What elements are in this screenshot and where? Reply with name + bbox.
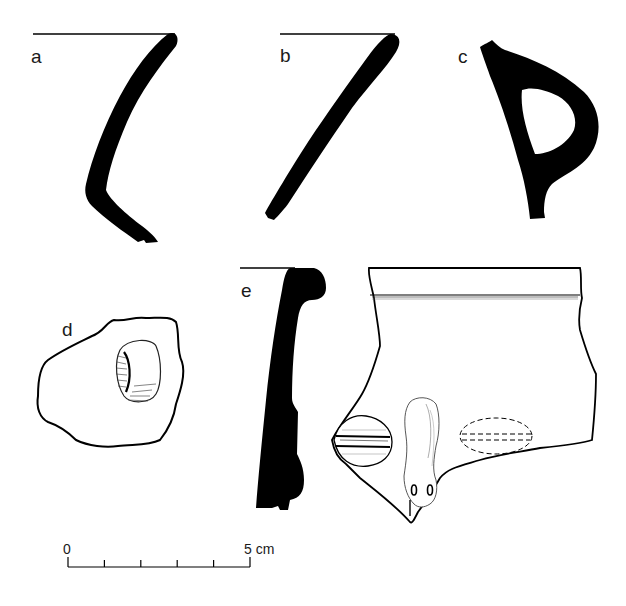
scale-start-label: 0 xyxy=(63,542,71,556)
label-e: e xyxy=(241,281,252,300)
missing-applique-outline xyxy=(460,418,532,454)
label-d: d xyxy=(62,320,73,339)
sherd-a-profile xyxy=(33,33,178,243)
figure-canvas: a b c d e 0 5 cm xyxy=(0,0,626,606)
label-b: b xyxy=(280,46,291,65)
figurine-applique xyxy=(404,398,439,516)
sherd-c-handle-section xyxy=(480,40,599,219)
scale-bar xyxy=(68,557,250,567)
label-a: a xyxy=(31,47,42,66)
scale-end-label: 5 cm xyxy=(244,542,274,556)
lug-boss xyxy=(334,416,392,467)
sherd-e-exterior-view xyxy=(332,268,596,523)
applied-boss xyxy=(116,340,161,401)
drawing-layer xyxy=(0,0,626,606)
label-c: c xyxy=(458,47,468,66)
sherd-e-profile xyxy=(240,268,326,510)
sherd-d-drawing xyxy=(37,318,183,447)
